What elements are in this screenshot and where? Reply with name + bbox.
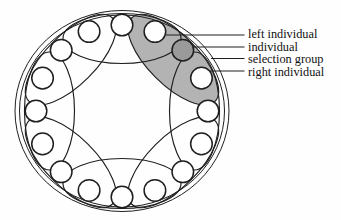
individual-circle: [144, 180, 166, 202]
individual-circle: [25, 100, 47, 122]
individual-circle: [32, 67, 54, 89]
individual-circle: [197, 100, 219, 122]
individual-circle: [32, 133, 54, 155]
population-boundary-inner: [20, 15, 225, 207]
individual-circle: [172, 161, 194, 183]
selected-individual-circle: [172, 39, 194, 61]
group-ellipse: [11, 0, 130, 119]
left-individual-circle: [144, 21, 166, 43]
individual-circle: [50, 39, 72, 61]
individual-circle: [111, 14, 133, 36]
individual-circle: [111, 186, 133, 208]
right-individual-circle: [191, 67, 213, 89]
individual-circle: [50, 161, 72, 183]
individual-circle: [78, 21, 100, 43]
individual-circle: [78, 180, 100, 202]
figure-canvas: left individualindividualselection group…: [0, 0, 341, 220]
ring-topology-diagram: left individualindividualselection group…: [0, 0, 341, 220]
individual-circle: [191, 133, 213, 155]
label-right-individual: right individual: [248, 65, 325, 79]
